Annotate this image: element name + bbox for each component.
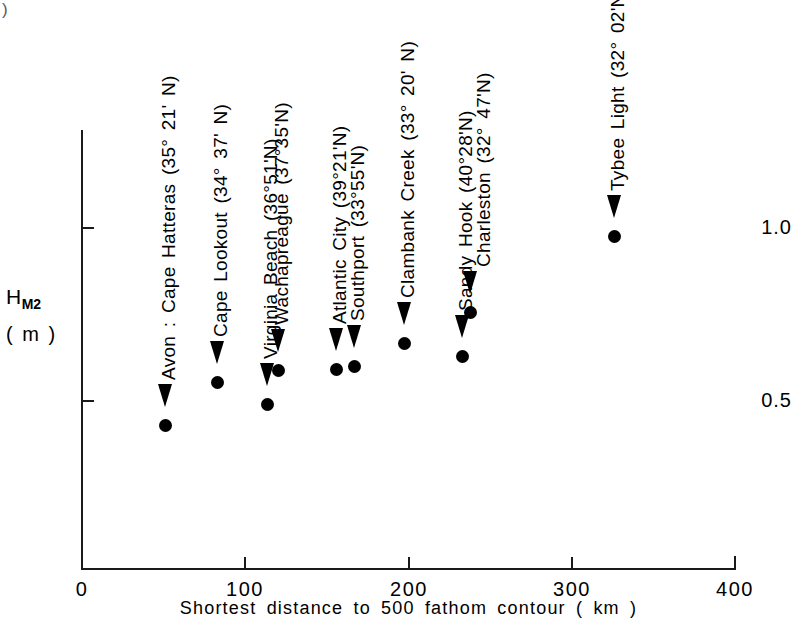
arrow-avon-cape-hatteras bbox=[158, 384, 172, 407]
y-tick-label-1.0: 1.0 bbox=[732, 216, 792, 239]
arrow-clambank-creek bbox=[397, 302, 411, 325]
data-point-southport bbox=[348, 360, 361, 373]
data-point-virginia-beach bbox=[261, 398, 274, 411]
arrow-virginia-beach bbox=[260, 363, 274, 386]
scan-artifact: ) bbox=[2, 0, 8, 20]
data-point-atlantic-city bbox=[330, 363, 343, 376]
x-tick-400 bbox=[734, 556, 736, 569]
x-tick-300 bbox=[571, 557, 573, 568]
annotation-clambank-creek: Clambank Creek (33° 20' N) bbox=[398, 41, 417, 298]
arrow-cape-lookout bbox=[210, 341, 224, 364]
x-tick-100 bbox=[244, 557, 246, 568]
y-axis-unit: ( m ) bbox=[6, 319, 70, 349]
data-point-sandy-hook bbox=[456, 350, 469, 363]
data-point-tybee-light bbox=[608, 230, 621, 243]
annotation-wachapreague: Wachapreague (37°35'N) bbox=[272, 102, 291, 325]
y-axis-subscript: M bbox=[22, 296, 34, 312]
annotation-cape-lookout: Cape Lookout (34° 37' N) bbox=[211, 104, 230, 337]
annotation-tybee-light: Tybee Light (32° 02'N) bbox=[608, 0, 627, 191]
arrow-tybee-light bbox=[607, 195, 621, 218]
x-tick-0 bbox=[81, 556, 83, 569]
y-axis-title: HM2 ( m ) bbox=[6, 282, 70, 349]
arrow-atlantic-city bbox=[329, 328, 343, 351]
x-tick-200 bbox=[408, 557, 410, 568]
annotation-charleston: Charleston (32° 47'N) bbox=[474, 72, 493, 267]
arrow-southport bbox=[347, 325, 361, 348]
y-tick-1.0 bbox=[83, 227, 94, 229]
arrow-sandy-hook bbox=[455, 315, 469, 338]
y-axis-line bbox=[81, 130, 83, 570]
data-point-cape-lookout bbox=[211, 376, 224, 389]
y-tick-0.5 bbox=[83, 400, 94, 402]
x-axis-title: Shortest distance to 500 fathom contour … bbox=[81, 598, 736, 619]
y-tick-label-0.5: 0.5 bbox=[732, 389, 792, 412]
annotation-southport: Southport (33°55'N) bbox=[348, 145, 367, 321]
data-point-clambank-creek bbox=[398, 337, 411, 350]
y-axis-subscript-2: 2 bbox=[33, 296, 41, 312]
x-axis-line bbox=[81, 568, 736, 570]
scatter-chart-figure: ) 1.0 0.5 HM2 ( m ) 0 100 200 300 400 Sh… bbox=[0, 0, 792, 621]
annotation-avon-cape-hatteras: Avon : Cape Hatteras (35° 21' N) bbox=[159, 75, 178, 380]
y-axis-symbol: H bbox=[6, 285, 22, 308]
data-point-avon-cape-hatteras bbox=[159, 419, 172, 432]
